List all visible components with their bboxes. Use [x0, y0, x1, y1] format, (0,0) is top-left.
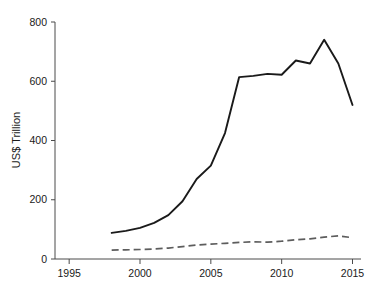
line-chart: 0200400600800 19952000200520102015 US$ T… [0, 0, 387, 299]
y-tick-label: 600 [29, 75, 47, 87]
y-tick-label: 800 [29, 16, 47, 28]
y-tick-label: 400 [29, 134, 47, 146]
y-tick-label: 0 [41, 253, 47, 265]
x-axis-ticks: 19952000200520102015 [57, 259, 364, 279]
dashed-line-series [112, 236, 353, 250]
x-tick-label: 2000 [128, 267, 152, 279]
solid-line-series [112, 40, 353, 233]
y-tick-label: 200 [29, 193, 47, 205]
x-tick-label: 2005 [199, 267, 223, 279]
x-tick-label: 1995 [57, 267, 81, 279]
series-group [112, 40, 353, 250]
x-tick-label: 2010 [270, 267, 294, 279]
y-axis-ticks: 0200400600800 [29, 16, 55, 265]
chart-container: 0200400600800 19952000200520102015 US$ T… [0, 0, 387, 299]
y-axis-title: US$ Trillion [10, 112, 22, 168]
x-tick-label: 2015 [341, 267, 365, 279]
